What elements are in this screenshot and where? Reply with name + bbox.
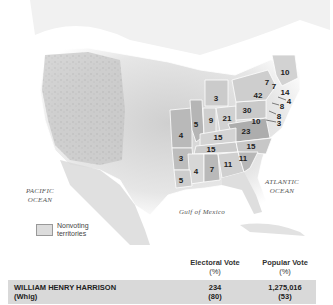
electoral-vote-value: 234	[185, 283, 245, 292]
electoral-vote-cell: 234 (80)	[185, 283, 245, 301]
state-label-la: 5	[179, 176, 183, 185]
header-electoral-pct: (%)	[185, 267, 245, 276]
state-label-md: 10	[252, 117, 261, 126]
legend-label: Nonvoting territories	[57, 222, 89, 238]
state-label-ga: 11	[224, 160, 232, 169]
canada-landmass	[30, 0, 330, 55]
state-label-oh: 21	[223, 114, 232, 123]
atlantic-label-line2: OCEAN	[258, 187, 306, 196]
gulf-of-mexico-label: Gulf of Mexico	[172, 208, 232, 217]
nonvoting-swatch	[36, 224, 53, 236]
header-popular-vote: Popular Vote (%)	[255, 258, 315, 276]
state-label-al: 7	[210, 165, 214, 174]
us-election-map	[0, 0, 333, 250]
caribbean-islands	[240, 224, 305, 236]
legend-label-line1: Nonvoting	[57, 222, 89, 230]
state-label-de: 3	[277, 119, 281, 128]
state-label-ms: 4	[194, 167, 198, 176]
atlantic-label-line1: ATLANTIC	[258, 178, 306, 187]
state-label-mi: 3	[214, 94, 218, 103]
pacific-label-line1: PACIFIC	[20, 187, 60, 196]
state-label-il: 5	[194, 120, 198, 129]
popular-vote-value: 1,275,016	[255, 283, 315, 292]
state-label-ar: 3	[179, 154, 183, 163]
state-label-vt: 7	[265, 78, 269, 87]
popular-vote-pct: (53)	[255, 292, 315, 301]
atlantic-ocean-label: ATLANTIC OCEAN	[258, 178, 306, 196]
state-label-tn: 15	[207, 145, 216, 154]
pacific-label-line2: OCEAN	[20, 196, 60, 205]
state-label-ri: 4	[287, 97, 291, 106]
state-label-pa: 30	[243, 106, 252, 115]
state-label-ma: 14	[281, 88, 290, 97]
candidate-cell: WILLIAM HENRY HARRISON (Whig)	[14, 283, 116, 301]
state-label-ct: 8	[280, 102, 284, 111]
state-label-sc: 11	[239, 154, 247, 163]
pacific-ocean-label: PACIFIC OCEAN	[20, 187, 60, 205]
header-electoral-label: Electoral Vote	[185, 258, 245, 267]
map-legend: Nonvoting territories	[36, 222, 89, 238]
state-label-nc: 15	[247, 142, 256, 151]
state-label-mo: 4	[179, 131, 183, 140]
state-label-in: 9	[209, 116, 213, 125]
state-label-ky: 15	[214, 133, 223, 142]
electoral-vote-pct: (80)	[185, 292, 245, 301]
header-popular-label: Popular Vote	[255, 258, 315, 267]
state-label-me: 10	[281, 68, 290, 77]
legend-label-line2: territories	[57, 230, 89, 238]
state-label-va: 23	[242, 127, 251, 136]
state-label-ny: 42	[254, 91, 263, 100]
header-electoral-vote: Electoral Vote (%)	[185, 258, 245, 276]
candidate-name: WILLIAM HENRY HARRISON	[14, 283, 116, 292]
header-popular-pct: (%)	[255, 267, 315, 276]
popular-vote-cell: 1,275,016 (53)	[255, 283, 315, 301]
table-row: WILLIAM HENRY HARRISON (Whig) 234 (80) 1…	[8, 280, 316, 304]
candidate-party: (Whig)	[14, 292, 116, 301]
state-label-nh: 7	[272, 82, 276, 91]
